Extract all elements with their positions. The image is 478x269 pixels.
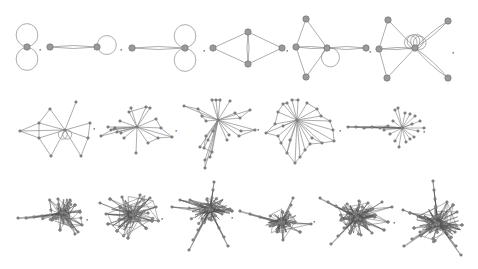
- graph-node: [249, 109, 252, 112]
- self-loop: [16, 48, 38, 71]
- graph-node: [329, 120, 332, 123]
- graph-node: [138, 206, 141, 209]
- graph-node: [360, 210, 363, 213]
- graph-node: [120, 132, 123, 135]
- graph-node: [451, 224, 454, 227]
- graph-node: [57, 198, 60, 201]
- graph-node: [402, 209, 405, 212]
- graph-node: [405, 141, 408, 144]
- graph-node: [139, 194, 142, 197]
- graph-edge: [388, 20, 415, 48]
- graph-r2g5: ,: [347, 107, 426, 149]
- graph-node: [383, 229, 386, 232]
- graph-node: [411, 238, 414, 241]
- graph-r2g1: ,: [19, 101, 96, 158]
- graph-node: [197, 108, 200, 111]
- graph-edge: [50, 200, 60, 214]
- separator-comma: ,: [93, 121, 95, 131]
- graph-node: [358, 200, 361, 203]
- graph-node: [143, 210, 146, 213]
- graph-node: [363, 215, 366, 218]
- graph-node: [131, 214, 134, 217]
- graph-node: [436, 231, 439, 234]
- graph-node: [401, 127, 404, 130]
- graph-node: [61, 208, 64, 211]
- graph-node: [282, 125, 285, 128]
- graph-node: [417, 215, 420, 218]
- graph-node: [299, 231, 302, 234]
- graph-node: [49, 214, 52, 217]
- graph-node: [223, 236, 226, 239]
- graph-node: [349, 220, 352, 223]
- graph-edge: [321, 116, 330, 121]
- graph-node: [294, 162, 297, 165]
- graph-node: [277, 230, 280, 233]
- graph-edge: [213, 48, 248, 64]
- graph-node: [286, 217, 289, 220]
- graph-node: [335, 205, 338, 208]
- graph-node: [277, 111, 280, 114]
- graph-node: [412, 45, 418, 51]
- graph-node: [409, 113, 412, 116]
- graph-node: [448, 225, 451, 228]
- graph-node: [100, 135, 103, 138]
- graph-node: [210, 45, 216, 51]
- graph-r1g4: ,: [210, 29, 288, 67]
- diagram-canvas: ,,,,,, ,,,,, ,,,,,: [0, 0, 478, 269]
- graph-node: [245, 29, 251, 35]
- graph-node: [189, 199, 192, 202]
- graph-node: [351, 227, 354, 230]
- graph-node: [271, 224, 274, 227]
- graph-edge: [20, 131, 39, 138]
- graph-edge: [39, 109, 50, 123]
- graph-node: [65, 216, 68, 219]
- graph-node: [249, 213, 252, 216]
- graph-node: [99, 202, 102, 205]
- graph-edge: [271, 209, 282, 215]
- graph-node: [205, 135, 208, 138]
- graph-node: [294, 221, 297, 224]
- graph-edge: [402, 128, 406, 142]
- graph-node: [207, 139, 210, 142]
- graph-node: [240, 130, 243, 133]
- graph-node: [389, 133, 392, 136]
- graph-node: [381, 201, 384, 204]
- graph-node: [210, 219, 213, 222]
- graph-r3g5: ,: [319, 197, 396, 246]
- graph-edge: [39, 138, 51, 156]
- graph-edge: [132, 48, 185, 50]
- graph-edge: [204, 120, 218, 148]
- graph-node: [110, 129, 113, 132]
- graph-node: [183, 105, 186, 108]
- graph-node: [309, 143, 312, 146]
- graph-edge: [281, 143, 287, 153]
- graph-node: [274, 123, 277, 126]
- graph-edge: [327, 47, 366, 49]
- graph-edge: [65, 123, 90, 130]
- graph-edge: [278, 112, 297, 120]
- graph-node: [374, 214, 377, 217]
- graph-edge: [148, 138, 158, 143]
- graph-node: [49, 218, 52, 221]
- graph-node: [77, 231, 80, 234]
- graph-edge: [275, 120, 297, 124]
- graph-node: [339, 214, 342, 217]
- graph-edge: [287, 103, 297, 120]
- graph-node: [332, 129, 335, 132]
- graph-r1g6: ,: [376, 17, 454, 81]
- graph-edge: [415, 21, 448, 48]
- graph-node: [392, 120, 395, 123]
- graph-node: [376, 46, 382, 52]
- graph-node: [201, 218, 204, 221]
- graph-edge: [402, 128, 410, 139]
- graph-node: [145, 106, 148, 109]
- graph-node: [89, 122, 92, 125]
- graph-node: [371, 126, 374, 129]
- graph-node: [152, 217, 155, 220]
- graph-r2g3: ,: [183, 99, 260, 170]
- graph-edge: [137, 127, 172, 137]
- graph-node: [190, 217, 193, 220]
- graph-node: [69, 200, 72, 203]
- graph-node: [214, 215, 217, 218]
- graph-node: [461, 224, 464, 227]
